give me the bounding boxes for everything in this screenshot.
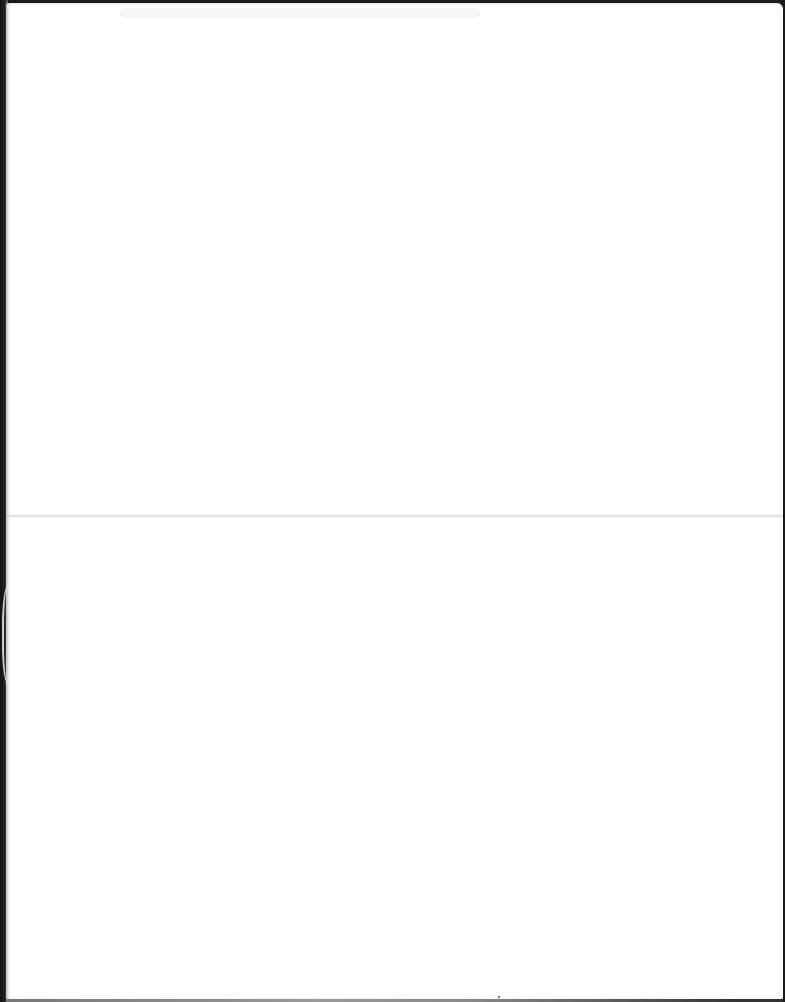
scanned-page bbox=[6, 3, 783, 1000]
fold-line bbox=[6, 514, 783, 518]
dust-speck bbox=[498, 996, 500, 998]
top-smudge bbox=[120, 8, 480, 18]
edge-tear bbox=[2, 585, 18, 685]
